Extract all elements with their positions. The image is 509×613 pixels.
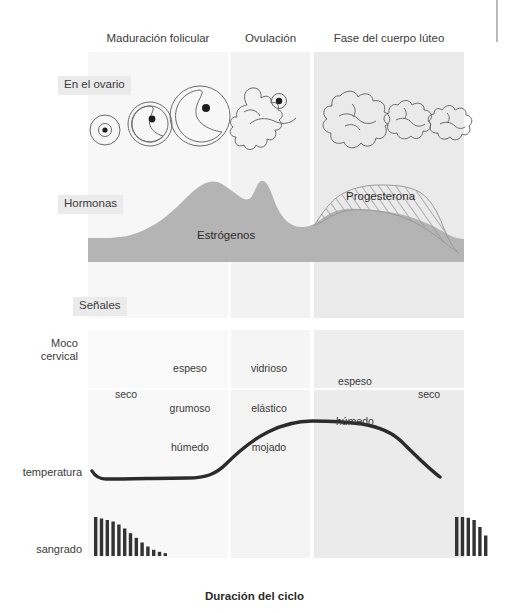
mucus-stage-2: espeso grumoso húmedo (160, 336, 220, 480)
mucus-stage-4-line-2: húmedo (325, 415, 385, 428)
mucus-stage-2-line-3: húmedo (160, 441, 220, 454)
row-label-bleeding: sangrado (4, 543, 82, 556)
mucus-stage-3: vidrioso elástico mojado (239, 336, 299, 480)
row-label-ovary: En el ovario (58, 76, 131, 95)
row-label-signals: Señales (73, 297, 127, 316)
phase-title-follicular: Maduración folicular (88, 32, 228, 46)
mucus-stage-3-line-1: vidrioso (239, 362, 299, 375)
cycle-diagram: Maduración folicular Ovulación Fase del … (0, 0, 509, 613)
phase-title-ovulation: Ovulación (231, 32, 310, 46)
mucus-stage-4-line-1: espeso (325, 375, 385, 388)
phase-column-shading (88, 52, 464, 558)
mucus-stage-1: seco (96, 362, 156, 428)
row-label-hormones: Hormonas (58, 195, 123, 214)
row-label-temperature: temperatura (4, 466, 82, 479)
mucus-stage-4: espeso húmedo (325, 349, 385, 454)
estrogen-label: Estrógenos (197, 229, 255, 243)
row-label-mucus-line2: cervical (14, 350, 78, 363)
phase-title-luteal: Fase del cuerpo lúteo (314, 32, 464, 46)
mucus-stage-2-line-2: grumoso (160, 402, 220, 415)
mucus-stage-3-line-3: mojado (239, 441, 299, 454)
mucus-stage-5-line-1: seco (399, 388, 459, 401)
mucus-stage-2-line-1: espeso (160, 362, 220, 375)
mucus-stage-3-line-2: elástico (239, 402, 299, 415)
row-label-mucus-line1: Moco (14, 337, 78, 350)
axis-title-cycle-duration: Duración del ciclo (0, 590, 509, 604)
progesterone-label: Progesterona (346, 190, 415, 204)
mucus-stage-5: seco (399, 362, 459, 428)
mucus-stage-1-line-1: seco (96, 388, 156, 401)
